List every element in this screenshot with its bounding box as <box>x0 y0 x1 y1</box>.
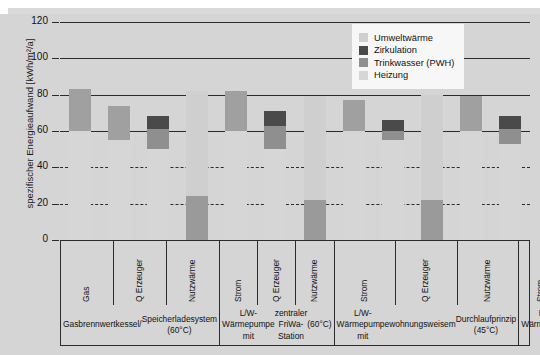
bar-segment <box>460 96 482 131</box>
y-tick-label-0: 0 <box>8 233 48 244</box>
bar-segment <box>186 91 208 196</box>
x-group: StromQ ErzeugerNutzwärmeL/W-Wärmepumpe m… <box>335 241 520 345</box>
bar-segment <box>382 131 404 140</box>
legend-swatch <box>359 33 368 42</box>
x-category-label: Nutzwärme <box>309 260 319 302</box>
x-category-label: Strom <box>359 280 369 302</box>
bar-segment <box>69 131 91 240</box>
y-tick-mark-0 <box>52 240 59 241</box>
bar-segment <box>421 200 443 240</box>
y-tick-mark-20 <box>52 204 59 205</box>
y-tick-mark-80 <box>52 95 59 96</box>
bar-segment <box>147 149 169 240</box>
y-tick-mark-100 <box>52 58 59 59</box>
bar-q-erzeuger <box>225 22 247 240</box>
bar-segment <box>69 89 91 131</box>
bar-segment <box>382 140 404 240</box>
bar-segment <box>499 129 521 144</box>
x-group-title: L/W-Wärmepumpe mitzentraler FriWa-Statio… <box>519 305 540 345</box>
bar-segment <box>264 149 286 240</box>
x-category-cell: Q Erzeuger <box>258 241 296 305</box>
bar-segment <box>264 111 286 126</box>
x-category-label: Q Erzeuger <box>271 259 281 302</box>
x-category-label: Nutzwärme <box>187 260 197 302</box>
y-tick-label-60: 60 <box>8 124 48 135</box>
x-category-cell: Q Erzeuger <box>114 241 167 305</box>
chart-figure: spezifischer Energieaufwand [kWh/m²/a] 0… <box>0 0 540 355</box>
bar-nutzwärme <box>264 22 286 240</box>
bar-q-erzeuger <box>108 22 130 240</box>
x-category-cell: Strom <box>519 241 540 305</box>
x-group-cells: GasQ ErzeugerNutzwärme <box>61 241 219 305</box>
legend-swatch <box>359 58 368 67</box>
y-tick-mark-40 <box>52 167 59 168</box>
legend-item: Heizung <box>359 70 454 80</box>
legend-item: Zirkulation <box>359 45 454 55</box>
x-category-label: Strom <box>233 280 243 302</box>
bar-segment <box>225 131 247 240</box>
bar-gas <box>69 22 91 240</box>
x-group-title: L/W-Wärmepumpe mitwohnungsweisemDurchlau… <box>335 305 519 345</box>
x-category-label: Strom <box>535 280 540 302</box>
bar-segment <box>499 116 521 129</box>
x-category-cell: Nutzwärme <box>458 241 519 305</box>
y-tick-mark-120 <box>52 22 59 23</box>
legend-item: Trinkwasser (PWH) <box>359 58 454 68</box>
bar-segment <box>147 116 169 129</box>
bar-segment <box>264 126 286 150</box>
bar-segment <box>499 144 521 240</box>
y-tick-label-100: 100 <box>8 51 48 62</box>
x-group: StromQ ErzeugerNutzwärmeL/W-Wärmepumpe m… <box>519 241 540 345</box>
x-group-cells: StromQ ErzeugerNutzwärme <box>220 241 333 305</box>
legend-label: Umweltwärme <box>374 33 433 43</box>
bar-nutzwärme <box>147 22 169 240</box>
x-category-label: Q Erzeuger <box>420 259 430 302</box>
bar-segment <box>186 196 208 240</box>
x-category-cell: Gas <box>61 241 114 305</box>
y-tick-label-80: 80 <box>8 88 48 99</box>
y-tick-label-120: 120 <box>8 15 48 26</box>
bar-segment <box>421 95 443 200</box>
legend-label: Trinkwasser (PWH) <box>374 58 454 68</box>
x-category-cell: Strom <box>220 241 258 305</box>
x-category-cell: Strom <box>335 241 397 305</box>
x-group-title: L/W-Wärmepumpe mitzentraler FriWa-Statio… <box>220 305 333 345</box>
x-category-cell: Q Erzeuger <box>396 241 458 305</box>
x-category-cell: Nutzwärme <box>167 241 219 305</box>
bar-segment <box>343 100 365 131</box>
x-category-label: Q Erzeuger <box>134 259 144 302</box>
bar-segment <box>108 106 130 141</box>
bar-segment <box>460 131 482 240</box>
x-group-title: Gasbrennwertkessel/Speicherladesystem (6… <box>61 305 219 345</box>
x-category-label: Nutzwärme <box>482 260 492 302</box>
bar-segment <box>108 140 130 240</box>
x-group-cells: StromQ ErzeugerNutzwärme <box>519 241 540 305</box>
bar-segment <box>343 131 365 240</box>
x-group-cells: StromQ ErzeugerNutzwärme <box>335 241 519 305</box>
x-axis-label-table: GasQ ErzeugerNutzwärmeGasbrennwertkessel… <box>60 240 530 346</box>
bar-segment <box>147 129 169 149</box>
y-tick-label-40: 40 <box>8 160 48 171</box>
bar-strom <box>304 22 326 240</box>
y-tick-mark-60 <box>52 131 59 132</box>
legend-swatch <box>359 71 368 80</box>
legend-item: Umweltwärme <box>359 33 454 43</box>
bar-segment <box>382 120 404 131</box>
chart-legend: UmweltwärmeZirkulationTrinkwasser (PWH)H… <box>352 24 464 89</box>
bar-segment <box>304 200 326 240</box>
x-category-cell: Nutzwärme <box>296 241 333 305</box>
y-tick-label-20: 20 <box>8 197 48 208</box>
legend-label: Heizung <box>374 70 408 80</box>
x-group: StromQ ErzeugerNutzwärmeL/W-Wärmepumpe m… <box>220 241 334 345</box>
x-group: GasQ ErzeugerNutzwärmeGasbrennwertkessel… <box>61 241 220 345</box>
bar-segment <box>304 96 326 200</box>
x-category-label: Gas <box>81 287 91 302</box>
legend-label: Zirkulation <box>374 45 417 55</box>
bar-nutzwärme <box>499 22 521 240</box>
legend-swatch <box>359 46 368 55</box>
bar-segment <box>225 91 247 131</box>
bar-strom <box>186 22 208 240</box>
